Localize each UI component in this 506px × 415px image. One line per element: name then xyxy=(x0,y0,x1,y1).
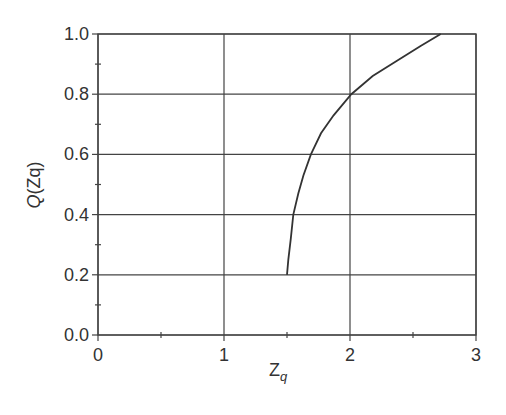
y-tick-label: 0.4 xyxy=(64,205,89,225)
tick-labels: 0.00.20.40.60.81.00123 xyxy=(64,24,481,365)
y-axis-label: Q(Zq) xyxy=(24,161,44,208)
y-tick-label: 0.6 xyxy=(64,144,89,164)
grid-lines xyxy=(98,34,476,335)
x-tick-label: 2 xyxy=(345,345,355,365)
y-tick-label: 0.0 xyxy=(64,325,89,345)
x-axis-label: Zq xyxy=(269,360,288,384)
x-tick-label: 0 xyxy=(93,345,103,365)
y-tick-label: 0.8 xyxy=(64,84,89,104)
y-tick-label: 1.0 xyxy=(64,24,89,44)
axes xyxy=(92,34,476,341)
chart-canvas: 0.00.20.40.60.81.00123 Zq Q(Zq) xyxy=(0,0,506,415)
y-tick-label: 0.2 xyxy=(64,265,89,285)
x-tick-label: 1 xyxy=(219,345,229,365)
x-tick-label: 3 xyxy=(471,345,481,365)
